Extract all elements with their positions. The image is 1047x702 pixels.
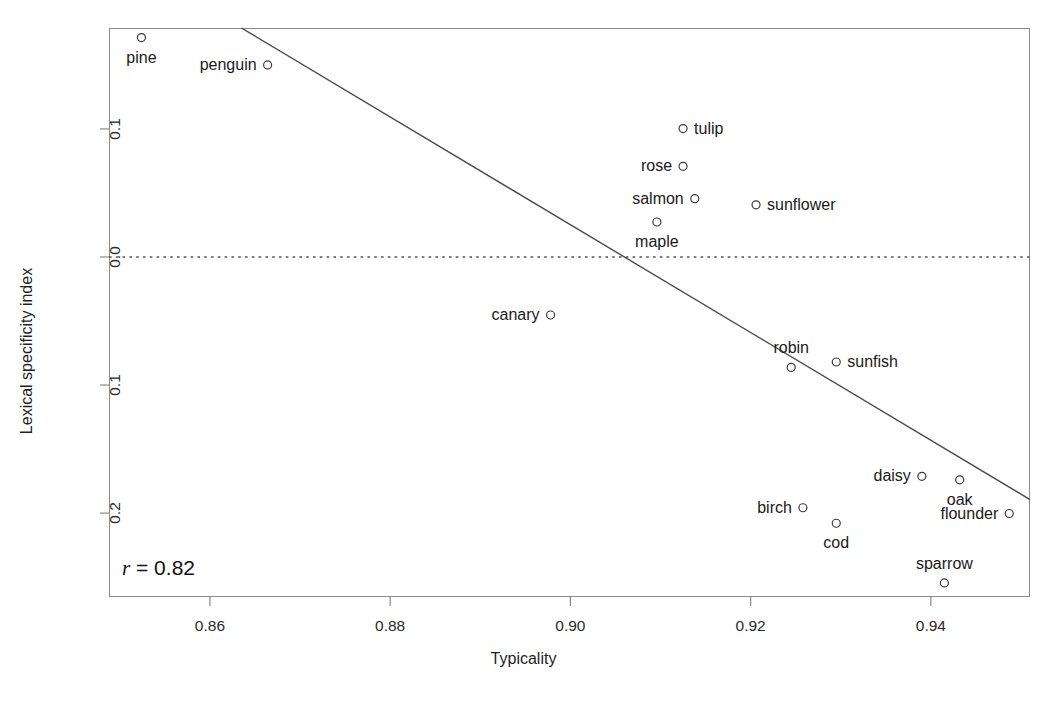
point-label-canary: canary <box>492 306 540 324</box>
x-tick-label: 0.94 <box>916 617 946 635</box>
y-axis-ticks <box>100 129 109 513</box>
y-axis-title-text: Lexical specificity index <box>18 268 36 434</box>
point-label-salmon: salmon <box>632 190 684 208</box>
point-label-daisy: daisy <box>873 467 910 485</box>
x-tick-label: 0.88 <box>375 617 405 635</box>
plot-frame <box>109 28 1030 597</box>
point-label-tulip: tulip <box>694 120 723 138</box>
correlation-symbol: r <box>122 556 130 580</box>
point-label-robin: robin <box>773 339 809 357</box>
x-axis-ticks <box>210 597 931 606</box>
point-label-rose: rose <box>641 157 672 175</box>
point-label-maple: maple <box>635 233 679 251</box>
point-label-sparrow: sparrow <box>916 555 973 573</box>
point-label-cod: cod <box>823 534 849 552</box>
point-label-sunflower: sunflower <box>767 196 835 214</box>
y-tick-label: 0.1 <box>106 129 124 151</box>
point-label-sunfish: sunfish <box>847 353 898 371</box>
point-label-birch: birch <box>757 499 792 517</box>
point-label-pine: pine <box>126 49 156 67</box>
x-tick-label: 0.86 <box>195 617 225 635</box>
x-tick-label: 0.92 <box>736 617 766 635</box>
correlation-annotation: r = 0.82 <box>122 556 195 581</box>
y-tick-label: 0.0 <box>106 257 124 279</box>
x-tick-label: 0.90 <box>555 617 585 635</box>
y-tick-label: 0.2 <box>106 513 124 535</box>
y-axis-title: Lexical specificity index <box>16 0 38 702</box>
scatter-plot-figure: 0.860.880.900.920.94 0.10.00.10.2 pinepe… <box>0 0 1047 702</box>
y-tick-label: 0.1 <box>106 385 124 407</box>
point-label-flounder: flounder <box>940 505 998 523</box>
x-axis-title: Typicality <box>0 650 1047 668</box>
point-label-penguin: penguin <box>200 56 257 74</box>
correlation-value-text: = 0.82 <box>130 556 195 579</box>
